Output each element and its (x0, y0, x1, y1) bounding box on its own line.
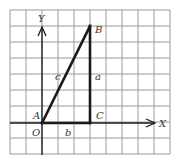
side-a-label: a (95, 71, 101, 82)
x-axis-label: X (158, 118, 167, 129)
triangle-diagram: Y X O A B C a b c (0, 0, 177, 162)
side-c-label: c (55, 71, 61, 82)
origin-label: O (32, 127, 40, 138)
point-c-label: C (96, 110, 104, 121)
point-b-label: B (94, 24, 102, 35)
side-b-label: b (65, 127, 71, 138)
point-a-label: A (32, 110, 40, 121)
y-axis-label: Y (38, 13, 46, 24)
